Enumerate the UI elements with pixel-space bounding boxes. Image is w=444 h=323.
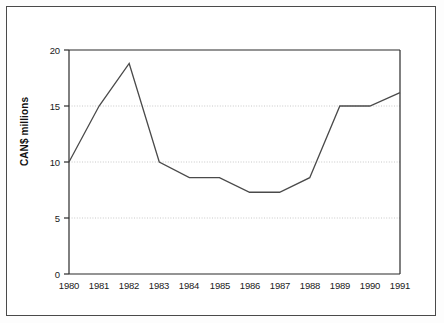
x-tick-label-1990: 1990 bbox=[354, 280, 386, 291]
y-tick-label-10: 10 bbox=[38, 157, 60, 168]
x-tick-label-1982: 1982 bbox=[113, 280, 145, 291]
x-tick-label-1980: 1980 bbox=[53, 280, 85, 291]
gridlines bbox=[69, 106, 400, 218]
y-tick-label-15: 15 bbox=[38, 101, 60, 112]
x-tick-label-1991: 1991 bbox=[384, 280, 416, 291]
x-tick-label-1986: 1986 bbox=[234, 280, 266, 291]
y-tick-label-0: 0 bbox=[38, 269, 60, 280]
data-series-line bbox=[69, 63, 400, 192]
x-tick-label-1989: 1989 bbox=[324, 280, 356, 291]
y-tick-label-5: 5 bbox=[38, 213, 60, 224]
x-tick-label-1984: 1984 bbox=[173, 280, 205, 291]
x-tick-label-1985: 1985 bbox=[204, 280, 236, 291]
chart-figure: CAN$ millions 0 5 10 15 20 1980 1981 198… bbox=[0, 0, 444, 323]
y-axis-title: CAN$ millions bbox=[19, 92, 30, 172]
line-chart-plot bbox=[0, 0, 444, 323]
x-tick-label-1983: 1983 bbox=[143, 280, 175, 291]
x-tick-label-1981: 1981 bbox=[83, 280, 115, 291]
x-tick-label-1987: 1987 bbox=[264, 280, 296, 291]
x-tick-label-1988: 1988 bbox=[294, 280, 326, 291]
y-tick-label-20: 20 bbox=[38, 45, 60, 56]
y-tick-marks bbox=[64, 50, 69, 274]
